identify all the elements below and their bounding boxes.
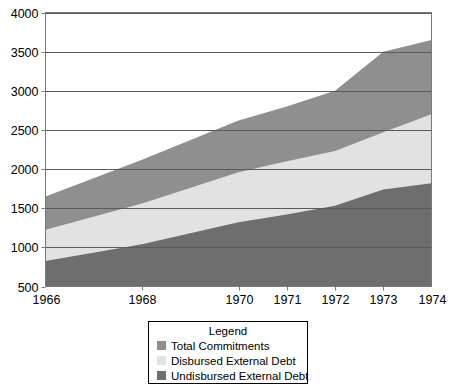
legend-title: Legend [149,325,307,338]
series-bands [46,40,432,287]
y-axis-tick-label: 2000 [11,163,39,177]
x-axis-tick-label: 1972 [322,293,350,307]
stacked-area-chart: 5001000150020002500300035004000 19661968… [0,0,453,391]
legend: Legend Total Commitments Disbursed Exter… [148,321,308,384]
legend-item-undisbursed-external-debt: Undisbursed External Debt [149,368,307,383]
y-axis-tick-label: 3000 [11,85,39,99]
x-axis: 1966196819701971197219731974 [33,287,447,307]
y-axis-tick-label: 4000 [11,7,39,21]
legend-swatch-undisbursed-external-debt [157,371,166,380]
y-axis-tick-label: 1500 [11,202,39,216]
legend-label-undisbursed-external-debt: Undisbursed External Debt [171,370,308,382]
legend-swatch-total-commitments [157,341,166,350]
y-axis-tick-label: 2500 [11,124,39,138]
y-axis-tick-label: 1000 [11,241,39,255]
legend-item-disbursed-external-debt: Disbursed External Debt [149,353,307,368]
y-axis: 5001000150020002500300035004000 [11,7,46,295]
legend-swatch-disbursed-external-debt [157,356,166,365]
x-axis-tick-label: 1970 [226,293,254,307]
legend-label-disbursed-external-debt: Disbursed External Debt [171,355,296,367]
legend-item-total-commitments: Total Commitments [149,338,307,353]
y-axis-tick-label: 3500 [11,46,39,60]
x-axis-tick-label: 1971 [274,293,302,307]
x-axis-tick-label: 1973 [370,293,398,307]
x-axis-tick-label: 1966 [33,293,61,307]
x-axis-tick-label: 1974 [419,293,447,307]
x-axis-tick-label: 1968 [129,293,157,307]
legend-label-total-commitments: Total Commitments [171,340,269,352]
